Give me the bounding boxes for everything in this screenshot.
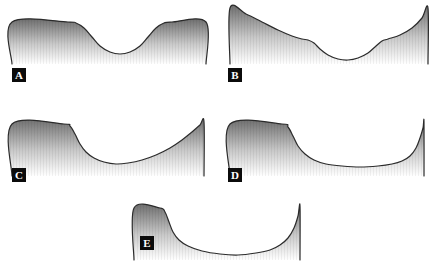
panel-label-a: A [12,68,26,82]
panel-c-texture [8,119,204,176]
panel-b-plot [226,2,430,68]
panel-a [10,4,210,68]
panel-a-plot [10,4,210,68]
panel-a-texture [8,19,209,64]
panel-c-plot [10,118,210,180]
panel-e [128,200,318,264]
panel-label-c: C [12,168,26,182]
panel-e-texture [132,204,300,260]
panel-d-plot [226,118,432,180]
panel-label-b: B [228,68,242,82]
figure-container: ABCDE [0,0,446,268]
panel-b [226,2,430,68]
panel-c [10,118,210,180]
panel-d-texture [226,119,424,176]
panel-label-e: E [140,236,154,250]
panel-d [226,118,432,180]
panel-label-d: D [228,168,242,182]
panel-e-plot [128,200,318,264]
